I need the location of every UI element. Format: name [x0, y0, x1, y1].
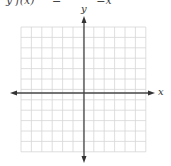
y-axis-up-arrow-icon — [82, 16, 87, 23]
x-axis-right-arrow-icon — [148, 91, 155, 96]
y-axis-label: y — [81, 3, 87, 14]
x-axis-label: x — [158, 86, 164, 97]
y-axis-down-arrow-icon — [82, 156, 87, 163]
coordinate-plane — [0, 0, 171, 166]
x-axis-left-arrow-icon — [10, 91, 17, 96]
